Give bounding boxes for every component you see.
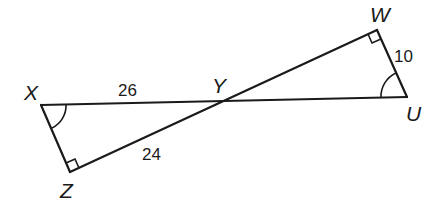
length-label-wu: 10 (394, 47, 413, 66)
vertex-label-y: Y (212, 74, 228, 97)
angle-arc-x (52, 104, 66, 128)
segment-zw (70, 30, 377, 172)
vertex-label-x: X (23, 81, 39, 104)
vertex-label-u: U (406, 102, 422, 125)
vertex-label-w: W (370, 3, 392, 26)
length-label-xy: 26 (118, 81, 137, 100)
length-label-zy: 24 (142, 145, 161, 164)
angle-arc-u (381, 73, 396, 98)
vertex-label-z: Z (59, 179, 74, 202)
geometry-diagram: X Y Z W U 26 24 10 (0, 0, 444, 216)
segment-xz (41, 105, 70, 172)
